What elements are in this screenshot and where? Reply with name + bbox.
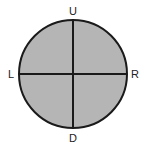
label-right: R bbox=[131, 68, 139, 80]
label-down: D bbox=[69, 132, 77, 144]
label-up: U bbox=[69, 5, 77, 17]
direction-diagram: U D L R bbox=[0, 0, 146, 148]
label-left: L bbox=[8, 68, 14, 80]
